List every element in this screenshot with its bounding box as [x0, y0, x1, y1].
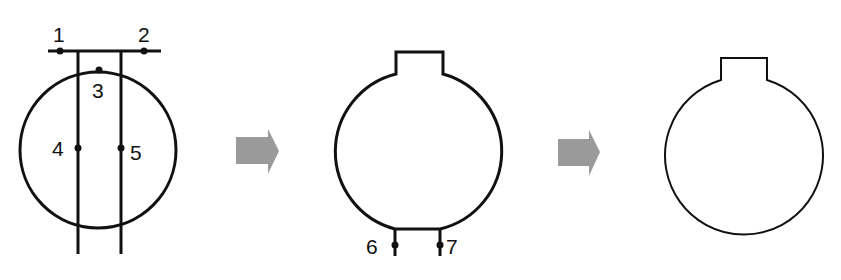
step-3-outline	[665, 58, 823, 235]
point-5-dot	[118, 145, 125, 152]
point-3-label: 3	[92, 79, 104, 102]
diagram-svg: 1 2 3 4 5 6 7	[0, 0, 841, 280]
point-2-dot	[141, 48, 148, 55]
step-1-construction: 1 2 3 4 5	[20, 23, 176, 254]
point-7-dot	[437, 242, 444, 249]
diagram-canvas: 1 2 3 4 5 6 7	[0, 0, 841, 280]
point-5-label: 5	[130, 141, 142, 164]
step-2-trimmed: 6 7	[335, 52, 501, 258]
point-1-dot	[57, 48, 64, 55]
point-6-label: 6	[366, 235, 378, 258]
step-3-final	[665, 58, 823, 235]
point-7-label: 7	[446, 235, 458, 258]
point-3-dot	[96, 67, 103, 74]
point-4-dot	[75, 145, 82, 152]
step-2-outline	[335, 52, 501, 229]
point-6-dot	[392, 242, 399, 249]
point-4-label: 4	[52, 137, 64, 160]
arrow-1-icon	[236, 129, 279, 174]
point-1-label: 1	[53, 23, 65, 46]
point-2-label: 2	[138, 23, 150, 46]
arrow-2-icon	[558, 130, 600, 176]
